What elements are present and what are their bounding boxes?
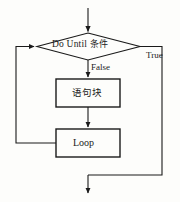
statement-block-label: 语句块 xyxy=(72,88,102,98)
flowchart-graphics xyxy=(0,0,180,202)
loop-box-label: Loop xyxy=(73,138,94,148)
decision-label: Do Until 条件 xyxy=(52,40,108,50)
edge-label-false: False xyxy=(91,63,110,72)
edge-loop-feedback-to-decision xyxy=(16,47,56,144)
edge-label-true: True xyxy=(146,51,163,60)
decision-label-en: Do Until xyxy=(52,39,87,49)
flowchart-canvas: Do Until 条件 True False 语句块 Loop xyxy=(0,0,180,202)
decision-label-zh: 条件 xyxy=(90,39,108,49)
